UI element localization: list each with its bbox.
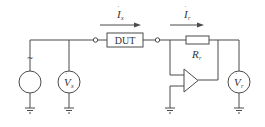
vx-subscript: x bbox=[70, 83, 74, 89]
ground-icon bbox=[234, 108, 244, 113]
terminal-left bbox=[93, 38, 97, 42]
opamp bbox=[184, 69, 198, 92]
current-ix: I x · bbox=[100, 4, 141, 28]
voltmeter-vr: V r · bbox=[228, 71, 250, 93]
ac-source: ~ bbox=[19, 54, 41, 93]
ground-icon bbox=[165, 108, 175, 113]
rr-subscript: r bbox=[199, 55, 202, 61]
ir-subscript: r bbox=[188, 15, 191, 21]
vr-subscript: r bbox=[241, 83, 244, 89]
voltmeter-vx: V x · bbox=[58, 71, 80, 93]
circuit-diagram: ~ V x · DUT I x · R r I r · V bbox=[0, 0, 265, 127]
ground-icon bbox=[25, 108, 35, 113]
resistor-rr: R r bbox=[186, 36, 209, 61]
dut-label: DUT bbox=[115, 35, 136, 46]
ground-icon bbox=[64, 108, 74, 113]
current-ir: I r · bbox=[170, 4, 204, 28]
ac-symbol: ~ bbox=[27, 54, 34, 63]
rr-label: R bbox=[191, 48, 199, 60]
ix-subscript: x bbox=[120, 15, 124, 21]
terminal-right bbox=[155, 38, 159, 42]
dut-block: DUT bbox=[107, 33, 143, 47]
